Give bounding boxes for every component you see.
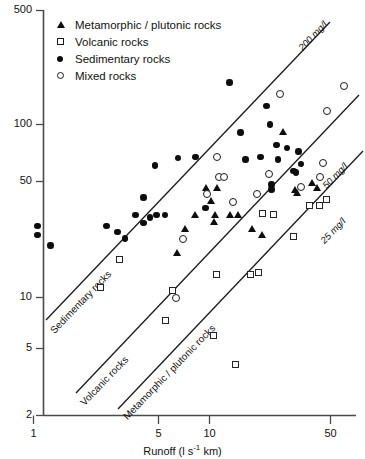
data-point-sedimentary bbox=[103, 223, 110, 230]
data-point-sedimentary bbox=[122, 235, 129, 242]
data-point-volcanic bbox=[116, 256, 123, 263]
y-tick-label-2: 2 bbox=[0, 408, 32, 420]
x-axis-title-pre: Runoff (l s bbox=[143, 445, 193, 457]
x-tick-label-5: 5 bbox=[146, 427, 171, 439]
data-point-sedimentary bbox=[34, 232, 41, 239]
chart-canvas: 500 100 50 10 5 2 1 5 10 50 Runoff (l s-… bbox=[0, 0, 365, 459]
data-point-volcanic bbox=[323, 196, 330, 203]
legend-label-sedimentary: Sedimentary rocks bbox=[75, 53, 170, 65]
data-point-sedimentary bbox=[140, 194, 147, 201]
data-point-volcanic bbox=[290, 233, 297, 240]
data-point-sedimentary bbox=[242, 156, 249, 163]
y-tick-label-100: 100 bbox=[0, 117, 32, 129]
data-point-sedimentary bbox=[202, 205, 209, 212]
y-axis-ticks bbox=[36, 11, 44, 416]
data-point-volcanic bbox=[270, 211, 277, 218]
x-axis-title-post: km) bbox=[200, 445, 221, 457]
data-point-mixed bbox=[253, 190, 261, 198]
data-point-metamorphic bbox=[210, 218, 218, 225]
x-axis-ticks bbox=[34, 416, 331, 425]
data-point-sedimentary bbox=[34, 223, 41, 230]
data-point-sedimentary bbox=[237, 129, 244, 136]
data-point-sedimentary bbox=[268, 186, 275, 193]
y-tick-label-500: 500 bbox=[0, 3, 32, 15]
data-point-mixed bbox=[297, 183, 305, 191]
data-point-metamorphic bbox=[234, 211, 242, 218]
data-point-metamorphic bbox=[181, 225, 189, 232]
data-point-volcanic bbox=[97, 284, 104, 291]
data-point-volcanic bbox=[162, 317, 169, 324]
legend-item-sedimentary[interactable]: Sedimentary rocks bbox=[57, 50, 221, 67]
data-point-mixed bbox=[220, 173, 228, 181]
data-point-metamorphic bbox=[213, 184, 221, 191]
data-point-mixed bbox=[203, 190, 211, 198]
data-point-sedimentary bbox=[226, 79, 233, 86]
data-point-sedimentary bbox=[132, 212, 139, 219]
data-point-sedimentary bbox=[263, 103, 270, 110]
y-tick-label-50: 50 bbox=[0, 174, 32, 186]
data-point-mixed bbox=[265, 170, 273, 178]
data-point-metamorphic bbox=[173, 249, 181, 256]
data-point-volcanic bbox=[306, 202, 313, 209]
legend-item-volcanic[interactable]: Volcanic rocks bbox=[57, 33, 221, 50]
data-point-mixed bbox=[229, 198, 237, 206]
data-point-sedimentary bbox=[47, 242, 54, 249]
y-tick-label-10: 10 bbox=[0, 290, 32, 302]
data-point-volcanic bbox=[232, 361, 239, 368]
data-point-mixed bbox=[316, 173, 324, 181]
data-point-sedimentary bbox=[114, 229, 121, 236]
data-point-sedimentary bbox=[273, 142, 280, 149]
data-point-sedimentary bbox=[295, 148, 302, 155]
data-point-volcanic bbox=[259, 210, 266, 217]
data-point-metamorphic bbox=[191, 211, 199, 218]
data-point-volcanic bbox=[255, 269, 262, 276]
data-point-metamorphic bbox=[207, 197, 215, 204]
x-axis-title: Runoff (l s-1 km) bbox=[0, 443, 365, 457]
data-point-sedimentary bbox=[275, 156, 282, 163]
legend-label-metamorphic: Metamorphic / plutonic rocks bbox=[75, 19, 221, 31]
x-tick-label-10: 10 bbox=[197, 427, 222, 439]
y-tick-label-5: 5 bbox=[0, 341, 32, 353]
open-circle-icon bbox=[57, 72, 75, 79]
data-point-sedimentary bbox=[293, 169, 300, 176]
data-point-metamorphic bbox=[226, 211, 234, 218]
data-point-mixed bbox=[276, 90, 284, 98]
data-point-volcanic bbox=[169, 287, 176, 294]
data-point-mixed bbox=[172, 294, 180, 302]
data-point-sedimentary bbox=[267, 121, 274, 128]
filled-triangle-icon bbox=[57, 21, 75, 28]
x-tick-label-50: 50 bbox=[318, 427, 343, 439]
data-point-volcanic bbox=[247, 271, 254, 278]
legend-label-volcanic: Volcanic rocks bbox=[75, 36, 149, 48]
data-point-mixed bbox=[323, 107, 331, 115]
data-point-sedimentary bbox=[153, 212, 160, 219]
data-point-sedimentary bbox=[257, 154, 264, 161]
data-point-sedimentary bbox=[140, 220, 147, 227]
open-square-icon bbox=[57, 38, 75, 45]
data-point-metamorphic bbox=[313, 184, 321, 191]
data-point-metamorphic bbox=[248, 225, 256, 232]
legend-item-mixed[interactable]: Mixed rocks bbox=[57, 67, 221, 84]
data-point-mixed bbox=[179, 235, 187, 243]
data-point-volcanic bbox=[316, 202, 323, 209]
data-point-metamorphic bbox=[279, 128, 287, 135]
legend-label-mixed: Mixed rocks bbox=[75, 70, 136, 82]
legend-item-metamorphic[interactable]: Metamorphic / plutonic rocks bbox=[57, 16, 221, 33]
data-point-sedimentary bbox=[152, 162, 159, 169]
data-point-sedimentary bbox=[192, 154, 199, 161]
x-tick-label-1: 1 bbox=[21, 427, 46, 439]
filled-circle-icon bbox=[57, 56, 75, 62]
data-point-volcanic bbox=[213, 271, 220, 278]
data-point-metamorphic bbox=[258, 231, 266, 238]
legend: Metamorphic / plutonic rocks Volcanic ro… bbox=[57, 16, 221, 84]
data-point-volcanic bbox=[210, 332, 217, 339]
